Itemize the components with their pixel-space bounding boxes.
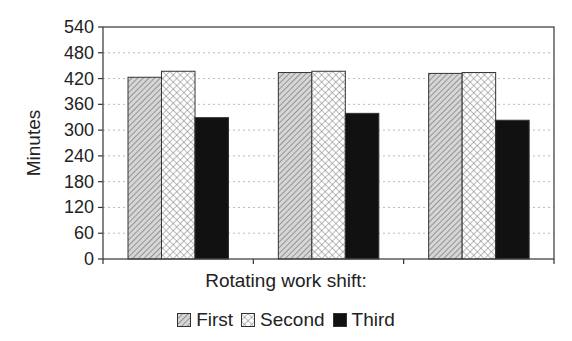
bar-third bbox=[195, 118, 229, 259]
y-tick-label: 120 bbox=[64, 197, 94, 217]
y-tick-label: 480 bbox=[64, 43, 94, 63]
legend-label: Second bbox=[260, 309, 324, 331]
bar-second bbox=[162, 71, 196, 259]
legend-swatch-diagonal-icon bbox=[177, 313, 191, 327]
y-tick-label: 240 bbox=[64, 146, 94, 166]
bar-first bbox=[429, 73, 463, 259]
bar-first bbox=[128, 77, 162, 259]
legend-item-third: Third bbox=[333, 309, 395, 331]
legend-label: Third bbox=[352, 309, 395, 331]
legend-swatch-solid-icon bbox=[333, 313, 347, 327]
legend-item-second: Second bbox=[241, 309, 324, 331]
y-tick-label: 0 bbox=[84, 249, 94, 269]
bar-first bbox=[278, 73, 312, 259]
x-axis-title: Rotating work shift: bbox=[0, 270, 572, 292]
y-tick-label: 300 bbox=[64, 120, 94, 140]
y-tick-label: 60 bbox=[74, 223, 94, 243]
legend-item-first: First bbox=[177, 309, 233, 331]
y-axis-title: Minutes bbox=[23, 110, 44, 177]
y-tick-label: 180 bbox=[64, 172, 94, 192]
bar-second bbox=[312, 71, 346, 259]
y-tick-label: 540 bbox=[64, 17, 94, 37]
legend-label: First bbox=[196, 309, 233, 331]
bar-second bbox=[462, 73, 496, 259]
legend: First Second Third bbox=[0, 309, 572, 331]
bar-third bbox=[496, 120, 529, 259]
legend-swatch-crosshatch-icon bbox=[241, 313, 255, 327]
y-tick-label: 420 bbox=[64, 69, 94, 89]
bars bbox=[128, 71, 529, 259]
y-tick-label: 360 bbox=[64, 94, 94, 114]
bar-third bbox=[345, 113, 379, 259]
